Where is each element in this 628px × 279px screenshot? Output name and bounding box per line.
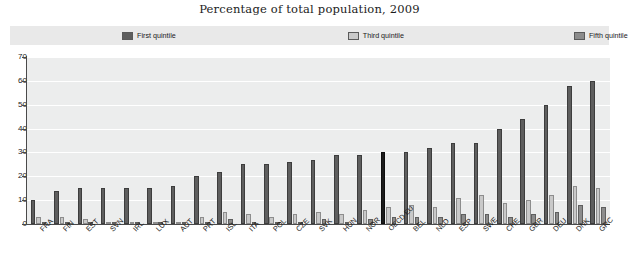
bar-group[interactable] bbox=[447, 57, 470, 224]
x-axis-label-cell: ISL bbox=[214, 225, 237, 279]
bar-group[interactable] bbox=[144, 57, 167, 224]
x-axis-label-cell: DNK bbox=[563, 225, 586, 279]
legend-item-fifth-quintile: Fifth quintile bbox=[574, 31, 628, 40]
bar[interactable] bbox=[194, 176, 199, 224]
x-axis-label-cell: DEU bbox=[540, 225, 563, 279]
bar-group[interactable] bbox=[27, 57, 50, 224]
x-axis-label-cell: PRT bbox=[190, 225, 213, 279]
bar[interactable] bbox=[264, 164, 269, 224]
bar-group[interactable] bbox=[74, 57, 97, 224]
bar[interactable] bbox=[544, 105, 549, 224]
bar-group[interactable] bbox=[540, 57, 563, 224]
x-axis-label-cell: SWE bbox=[470, 225, 493, 279]
chart-legend: First quintile Third quintile Fifth quin… bbox=[10, 26, 609, 45]
bar[interactable] bbox=[474, 143, 479, 224]
bar[interactable] bbox=[241, 164, 246, 224]
bar-group[interactable] bbox=[260, 57, 283, 224]
x-axis-label-cell: BEL bbox=[400, 225, 423, 279]
x-axis-label-cell: NLD bbox=[423, 225, 446, 279]
x-axis-label-cell: GBR bbox=[517, 225, 540, 279]
bar-group[interactable] bbox=[50, 57, 73, 224]
bar[interactable] bbox=[171, 186, 176, 224]
x-axis-label-cell: NOR bbox=[353, 225, 376, 279]
bar-series-container bbox=[27, 57, 610, 224]
legend-label: Fifth quintile bbox=[589, 31, 628, 40]
bar[interactable] bbox=[223, 212, 228, 224]
bar[interactable] bbox=[147, 188, 152, 224]
bar[interactable] bbox=[357, 155, 362, 224]
bar[interactable] bbox=[311, 160, 316, 224]
x-axis-label-cell: EST bbox=[74, 225, 97, 279]
x-axis-label-cell: CHE bbox=[493, 225, 516, 279]
bar-group[interactable] bbox=[214, 57, 237, 224]
bar[interactable] bbox=[456, 198, 461, 224]
legend-label: First quintile bbox=[137, 31, 176, 40]
bar-group[interactable] bbox=[167, 57, 190, 224]
bar[interactable] bbox=[124, 188, 129, 224]
x-axis-label-cell: SVK bbox=[307, 225, 330, 279]
bar-group[interactable] bbox=[423, 57, 446, 224]
x-axis-label-cell: IRL bbox=[120, 225, 143, 279]
x-axis-label-cell: OECD EU bbox=[377, 225, 400, 279]
x-axis-labels: FRAFINESTSVNIRLLUXAUTPRTISLITAPOLCZESVKH… bbox=[27, 225, 610, 279]
bar[interactable] bbox=[573, 186, 578, 224]
bar[interactable] bbox=[433, 207, 438, 224]
legend-swatch-icon bbox=[348, 32, 359, 40]
x-axis-label-cell: FIN bbox=[50, 225, 73, 279]
bar-group[interactable] bbox=[120, 57, 143, 224]
bar[interactable] bbox=[78, 188, 83, 224]
legend-item-third-quintile: Third quintile bbox=[348, 31, 404, 40]
bar-group[interactable] bbox=[330, 57, 353, 224]
x-axis-label-cell: SVN bbox=[97, 225, 120, 279]
bar[interactable] bbox=[334, 155, 339, 224]
legend-swatch-icon bbox=[122, 32, 133, 40]
bar[interactable] bbox=[567, 86, 572, 224]
bar[interactable] bbox=[101, 188, 106, 224]
x-axis-label-cell: POL bbox=[260, 225, 283, 279]
x-axis-label-cell: FRA bbox=[27, 225, 50, 279]
bar[interactable] bbox=[381, 152, 386, 224]
x-axis-label-cell: ITA bbox=[237, 225, 260, 279]
bar-group[interactable] bbox=[377, 57, 400, 224]
bar[interactable] bbox=[217, 172, 222, 224]
bar-group[interactable] bbox=[470, 57, 493, 224]
legend-item-first-quintile: First quintile bbox=[122, 31, 176, 40]
bar[interactable] bbox=[339, 214, 344, 224]
x-axis-label-cell: LUX bbox=[144, 225, 167, 279]
bar-group[interactable] bbox=[353, 57, 376, 224]
bar[interactable] bbox=[386, 207, 391, 224]
bar-group[interactable] bbox=[400, 57, 423, 224]
x-axis-label-cell: GRC bbox=[587, 225, 610, 279]
bar-group[interactable] bbox=[563, 57, 586, 224]
bar[interactable] bbox=[427, 148, 432, 224]
bar[interactable] bbox=[31, 200, 36, 224]
x-axis-label-cell: AUT bbox=[167, 225, 190, 279]
bar[interactable] bbox=[451, 143, 456, 224]
bar[interactable] bbox=[363, 210, 368, 224]
legend-label: Third quintile bbox=[363, 31, 404, 40]
bar[interactable] bbox=[520, 119, 525, 224]
bar-group[interactable] bbox=[587, 57, 610, 224]
bar[interactable] bbox=[549, 195, 554, 224]
bar-group[interactable] bbox=[283, 57, 306, 224]
bar-group[interactable] bbox=[97, 57, 120, 224]
bar[interactable] bbox=[479, 195, 484, 224]
y-axis: 010203040506070 bbox=[0, 57, 27, 225]
legend-swatch-icon bbox=[574, 32, 585, 40]
bar[interactable] bbox=[497, 129, 502, 224]
x-axis-label-cell: ESP bbox=[447, 225, 470, 279]
bar[interactable] bbox=[503, 203, 508, 224]
bar[interactable] bbox=[526, 200, 531, 224]
bar-group[interactable] bbox=[307, 57, 330, 224]
bar-group[interactable] bbox=[517, 57, 540, 224]
bar[interactable] bbox=[54, 191, 59, 224]
bar[interactable] bbox=[596, 188, 601, 224]
page-title: Percentage of total population, 2009 bbox=[0, 2, 619, 16]
x-axis-label-cell: HUN bbox=[330, 225, 353, 279]
bar-group[interactable] bbox=[190, 57, 213, 224]
bar[interactable] bbox=[287, 162, 292, 224]
bar[interactable] bbox=[590, 81, 595, 224]
bar-group[interactable] bbox=[237, 57, 260, 224]
bar-group[interactable] bbox=[493, 57, 516, 224]
